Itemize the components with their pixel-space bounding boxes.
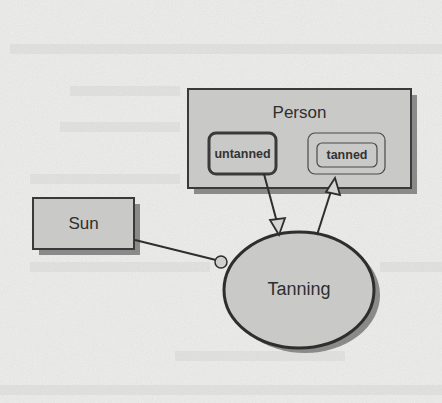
state-tanned-label: tanned [317,143,377,167]
hollow-circle-icon [215,256,227,268]
person-label: Person [188,102,411,124]
state-untanned-label: untanned [209,133,276,174]
sun-label: Sun [33,198,134,249]
tanning-label: Tanning [224,276,374,302]
diagram-canvas: Person untanned tanned Sun Tanning [0,0,442,403]
